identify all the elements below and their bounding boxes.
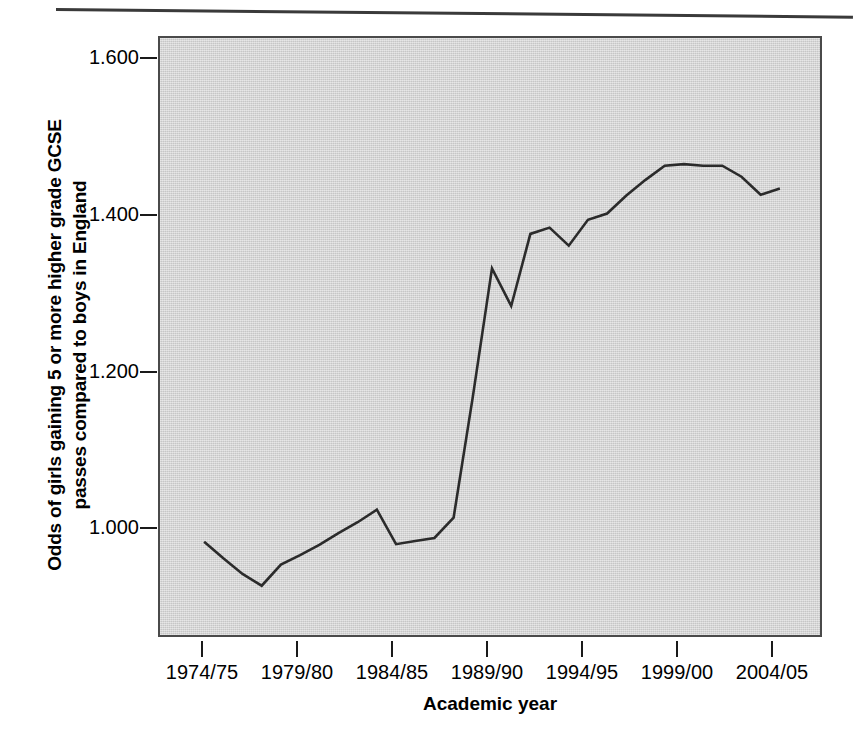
y-axis-title-line-1: Odds of girls gaining 5 or more higher g… [42, 35, 67, 655]
data-series-line [160, 38, 824, 639]
y-tick-mark [140, 527, 157, 529]
x-tick-mark [201, 641, 203, 657]
x-tick-mark [486, 641, 488, 657]
y-tick-1000: 1.000 [0, 516, 139, 540]
y-axis-title: Odds of girls gaining 5 or more higher g… [42, 35, 92, 655]
chart-figure: Odds of girls gaining 5 or more higher g… [0, 0, 853, 742]
y-tick-label: 1.600 [89, 46, 139, 69]
y-tick-mark [140, 214, 157, 216]
y-tick-1600: 1.600 [0, 46, 139, 70]
y-tick-label: 1.400 [89, 203, 139, 226]
x-tick-mark [581, 641, 583, 657]
y-tick-mark [140, 57, 157, 59]
x-tick-mark [771, 641, 773, 657]
y-tick-label: 1.200 [89, 360, 139, 383]
y-tick-1400: 1.400 [0, 203, 139, 227]
y-tick-mark [140, 371, 157, 373]
plot-area [158, 36, 822, 637]
x-tick-2004-05: 2004/05 [712, 641, 832, 701]
x-axis-title: Academic year [158, 693, 822, 715]
y-tick-label: 1.000 [89, 516, 139, 539]
y-axis-title-line-2: passes compared to boys in England [67, 35, 92, 655]
x-tick-label: 2004/05 [712, 661, 832, 684]
x-tick-mark [296, 641, 298, 657]
x-tick-mark [676, 641, 678, 657]
x-tick-mark [391, 641, 393, 657]
y-tick-1200: 1.200 [0, 360, 139, 384]
